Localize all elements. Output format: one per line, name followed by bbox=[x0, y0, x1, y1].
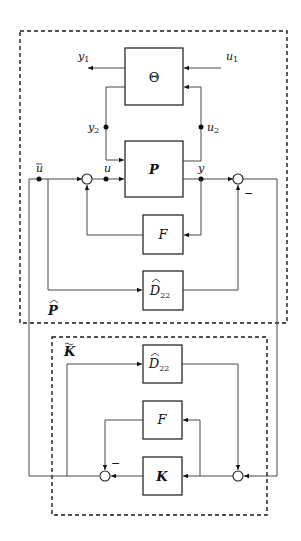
theta-block: Θ bbox=[125, 48, 183, 105]
feedback-f-k-block: F bbox=[143, 401, 182, 439]
minus-sign-top: − bbox=[244, 187, 253, 200]
y2-label: y2 bbox=[87, 121, 99, 135]
u2-node bbox=[199, 125, 204, 130]
minus-sign-bottom: − bbox=[111, 457, 120, 470]
theta-label: Θ bbox=[149, 70, 160, 85]
k-in-to-f-wire bbox=[183, 420, 200, 476]
plant-p-label: P bbox=[148, 162, 160, 177]
p-hat-label: P bbox=[47, 303, 59, 318]
controller-k-block: K bbox=[143, 457, 182, 495]
left-return-wire bbox=[29, 179, 99, 476]
d22-hat-block: D22 bbox=[143, 271, 183, 310]
summing-junction-1 bbox=[82, 174, 92, 184]
u2-wire bbox=[183, 87, 201, 161]
u-label: u bbox=[104, 162, 111, 175]
u1-label: u1 bbox=[226, 50, 238, 64]
d22-hat-k-block: D22 bbox=[143, 345, 182, 383]
y-label: y bbox=[197, 162, 205, 175]
d22-to-sum2-wire bbox=[183, 185, 238, 290]
y1-label: y1 bbox=[77, 50, 89, 64]
y2-node bbox=[104, 125, 109, 130]
output-wire-right bbox=[243, 179, 277, 476]
feedback-f-k-label: F bbox=[156, 412, 167, 427]
u2-label: u2 bbox=[207, 121, 219, 135]
block-diagram: Θ y1 u1 y2 u2 P u u y − F D22 bbox=[0, 0, 301, 541]
u-bar-node bbox=[37, 177, 42, 182]
y-to-f-wire bbox=[184, 179, 201, 235]
plant-p-block: P bbox=[125, 141, 183, 197]
summing-junction-4 bbox=[233, 471, 243, 481]
u-node bbox=[104, 177, 109, 182]
summing-junction-2 bbox=[233, 174, 243, 184]
y2-wire bbox=[106, 87, 125, 160]
summing-junction-3 bbox=[100, 471, 110, 481]
k-tilde-label: K bbox=[63, 344, 76, 359]
controller-k-label: K bbox=[155, 469, 168, 484]
feedback-f-block: F bbox=[143, 215, 183, 254]
feedback-f-label: F bbox=[157, 227, 168, 242]
d22-k-to-sum4-wire bbox=[182, 364, 238, 470]
